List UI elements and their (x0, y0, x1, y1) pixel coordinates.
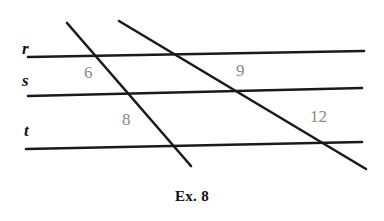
segment-label-8: 8 (122, 111, 131, 128)
parallel-line-t (26, 142, 362, 149)
segment-label-9: 9 (236, 62, 245, 79)
parallel-line-r (28, 51, 364, 57)
segment-label-6: 6 (84, 64, 93, 81)
line-label-s: s (22, 72, 29, 89)
segment-label-12: 12 (310, 108, 327, 125)
geometry-figure: r s t 6 9 8 12 Ex. 8 (0, 0, 384, 221)
line-label-r: r (22, 40, 29, 57)
figure-caption: Ex. 8 (0, 188, 384, 205)
parallel-line-s (28, 88, 362, 96)
line-label-t: t (24, 122, 29, 139)
